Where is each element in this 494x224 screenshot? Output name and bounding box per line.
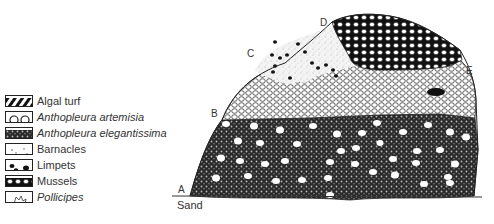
legend-label: Limpets <box>37 159 76 171</box>
open-circles-swatch-icon <box>5 111 33 123</box>
legend-item-anthopleura-elegantissima: Anthopleura elegantissima <box>5 126 167 140</box>
legend-item-limpets: Limpets <box>5 158 76 172</box>
point-label-a: A <box>178 184 185 195</box>
label-e: E <box>466 65 473 76</box>
legend-label: Anthopleura artemisia <box>37 111 144 123</box>
point-label-c: C <box>247 48 254 59</box>
legend-item-algal-turf: Algal turf <box>5 94 80 108</box>
legend-label: Algal turf <box>37 95 80 107</box>
point-label-b: B <box>211 108 218 119</box>
legend-item-anthopleura-artemisia: Anthopleura artemisia <box>5 110 144 124</box>
zone-mussels <box>332 14 462 70</box>
label-b: B <box>211 108 218 119</box>
legend-label: Mussels <box>37 175 77 187</box>
legend-label: Barnacles <box>37 143 86 155</box>
mussels-swatch-icon <box>5 175 33 187</box>
limpet-ovals-swatch-icon <box>5 159 33 171</box>
label-c: C <box>247 48 254 59</box>
crosshatch-swatch-icon <box>5 127 33 139</box>
point-label-e: E <box>466 65 473 76</box>
zone-anthopleura-elegantissima <box>190 114 478 200</box>
point-label-d: D <box>320 17 327 28</box>
sand-label: Sand <box>177 199 203 211</box>
legend-item-mussels: Mussels <box>5 174 77 188</box>
sand-text: Sand <box>177 199 203 211</box>
label-d: D <box>320 17 327 28</box>
stipple-swatch-icon <box>5 143 33 155</box>
legend-item-barnacles: Barnacles <box>5 142 86 156</box>
legend-label: Pollicipes <box>37 191 83 203</box>
legend-item-pollicipes: Pollicipes <box>5 190 83 204</box>
algal-turf-swatch-icon <box>5 95 33 107</box>
pollicipes-swatch-icon <box>5 191 33 203</box>
legend-label: Anthopleura elegantissima <box>37 127 167 139</box>
label-a: A <box>178 184 185 195</box>
pollicipes-cluster <box>427 88 445 96</box>
